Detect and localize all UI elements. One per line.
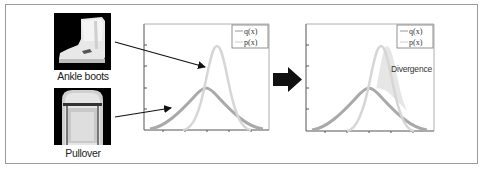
divergence-label: Divergence xyxy=(391,64,432,74)
q-curve-2 xyxy=(312,88,427,130)
chart-1-legend: q(x) p(x) xyxy=(232,25,268,48)
pullover-to-q-arrow xyxy=(115,108,171,117)
legend-q-label: q(x) xyxy=(244,27,258,36)
chart-1: q(x) p(x) xyxy=(144,24,269,132)
chart-2-legend: q(x) p(x) xyxy=(397,25,433,48)
svg-text:p(x): p(x) xyxy=(409,38,423,47)
svg-text:q(x): q(x) xyxy=(409,27,423,36)
transform-arrow-icon xyxy=(273,67,302,92)
boot-to-p-arrow xyxy=(115,42,205,67)
legend-p-label: p(x) xyxy=(244,38,258,47)
diagram-canvas: q(x) p(x) q(x) xyxy=(0,0,484,173)
chart-2: q(x) p(x) Divergence xyxy=(306,24,434,133)
